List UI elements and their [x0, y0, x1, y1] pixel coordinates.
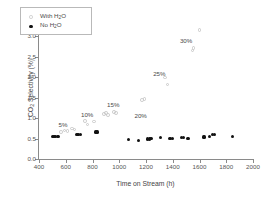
annotation-label: 10% — [81, 112, 93, 118]
chart-figure: 5%10%15%20%25%30% 0.00.51.01.52.02.53.03… — [0, 0, 271, 197]
data-point-no-water — [213, 133, 216, 136]
y-axis-title-post: Selectivity (%) — [27, 59, 34, 104]
x-axis-tick-label: 800 — [87, 164, 97, 170]
data-point-no-water — [149, 137, 152, 140]
data-point-with-water — [86, 123, 90, 127]
annotation-label: 20% — [134, 113, 146, 119]
data-point-no-water — [203, 135, 206, 138]
data-point-with-water — [73, 128, 77, 132]
x-axis-tick-label: 1600 — [193, 164, 207, 170]
data-point-no-water — [137, 139, 140, 142]
data-point-no-water — [127, 138, 130, 141]
plot-area: 5%10%15%20%25%30% 0.00.51.01.52.02.53.03… — [38, 16, 253, 160]
data-point-no-water — [57, 135, 60, 138]
filled-circle-icon — [26, 17, 36, 35]
data-point-no-water — [231, 135, 234, 138]
x-axis-tick-label: 1000 — [112, 164, 126, 170]
plot-inner: 5%10%15%20%25%30% — [39, 16, 253, 159]
data-point-with-water — [114, 111, 118, 115]
data-point-no-water — [79, 133, 82, 136]
legend: With H2O No H2O — [20, 7, 92, 35]
x-axis-tick-label: 1200 — [139, 164, 153, 170]
x-axis-tick-label: 2000 — [246, 164, 260, 170]
x-axis-tick-label: 1400 — [166, 164, 180, 170]
x-axis-tick-label: 600 — [61, 164, 71, 170]
data-point-with-water — [143, 97, 147, 101]
x-axis-tick-label: 400 — [34, 164, 44, 170]
y-axis-tick-label: 0.0 — [27, 156, 36, 162]
data-point-with-water — [166, 83, 170, 87]
data-point-no-water — [159, 136, 162, 139]
data-point-with-water — [192, 46, 196, 50]
legend-item-no-water: No H2O — [26, 21, 87, 30]
annotation-label: 30% — [180, 38, 192, 44]
data-point-no-water — [182, 136, 185, 139]
x-axis-tick-label: 1800 — [219, 164, 233, 170]
annotation-label: 5% — [59, 122, 68, 128]
data-point-no-water — [171, 137, 174, 140]
y-axis-title-pre: CO — [27, 107, 34, 117]
y-axis-title: CO2 Selectivity (%) — [28, 59, 35, 117]
data-point-no-water — [187, 137, 190, 140]
data-point-with-water — [66, 129, 70, 133]
y-axis-title-subscript: 2 — [29, 104, 35, 107]
data-point-no-water — [96, 130, 99, 133]
annotation-label: 15% — [107, 102, 119, 108]
data-point-with-water — [92, 120, 96, 124]
data-point-with-water — [198, 28, 202, 32]
x-axis-title: Time on Stream (h) — [38, 181, 253, 188]
y-axis-tick-label: 0.5 — [27, 135, 36, 141]
legend-label-with-water: With H2O — [40, 13, 66, 21]
legend-label-no-water: No H2O — [40, 22, 62, 30]
data-point-with-water — [106, 113, 110, 117]
annotation-label: 25% — [153, 71, 165, 77]
